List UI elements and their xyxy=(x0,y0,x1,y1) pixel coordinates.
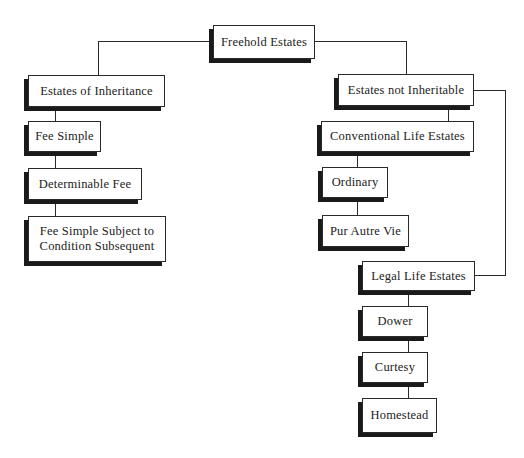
node-freehold-estates: Freehold Estates xyxy=(213,25,315,59)
node-label: Homestead xyxy=(370,408,428,423)
node-label: Fee Simple xyxy=(35,129,94,144)
node-estates-not-inheritable: Estates not Inheritable xyxy=(338,74,474,106)
node-legal-life-estates: Legal Life Estates xyxy=(362,261,475,291)
node-fee-simple: Fee Simple xyxy=(28,121,101,152)
connector-freehold-notinheritable-h xyxy=(314,41,407,42)
node-label: Freehold Estates xyxy=(221,35,307,50)
node-label: Conventional Life Estates xyxy=(330,129,465,144)
node-label: Ordinary xyxy=(332,175,379,190)
node-pur-autre-vie: Pur Autre Vie xyxy=(322,215,409,247)
node-label: Estates of Inheritance xyxy=(40,84,153,99)
connector-notinheritable-legal-v xyxy=(505,90,506,276)
node-dower: Dower xyxy=(362,306,428,337)
connector-freehold-notinheritable-v xyxy=(406,41,407,75)
connector-notinheritable-conventional xyxy=(448,106,449,121)
connector-notinheritable-legal-h1 xyxy=(474,90,506,91)
node-conventional-life-estates: Conventional Life Estates xyxy=(321,121,474,152)
node-label: Legal Life Estates xyxy=(371,269,466,284)
node-determinable-fee: Determinable Fee xyxy=(28,168,142,200)
node-label: Estates not Inheritable xyxy=(348,83,464,98)
node-curtesy: Curtesy xyxy=(362,352,428,383)
connector-notinheritable-legal-h2 xyxy=(475,275,506,276)
node-label: Pur Autre Vie xyxy=(330,224,401,239)
node-label: Determinable Fee xyxy=(39,177,131,192)
node-label: Curtesy xyxy=(375,360,415,375)
node-ordinary: Ordinary xyxy=(322,167,388,198)
connector-freehold-inheritance-v xyxy=(98,41,99,75)
node-estates-of-inheritance: Estates of Inheritance xyxy=(28,75,165,107)
node-homestead: Homestead xyxy=(362,398,437,433)
node-label: Dower xyxy=(377,314,412,329)
node-fee-simple-subject-to-condition-subsequent: Fee Simple Subject to Condition Subseque… xyxy=(28,216,166,262)
node-label: Fee Simple Subject to Condition Subseque… xyxy=(40,224,155,254)
connector-freehold-inheritance-h xyxy=(98,41,214,42)
